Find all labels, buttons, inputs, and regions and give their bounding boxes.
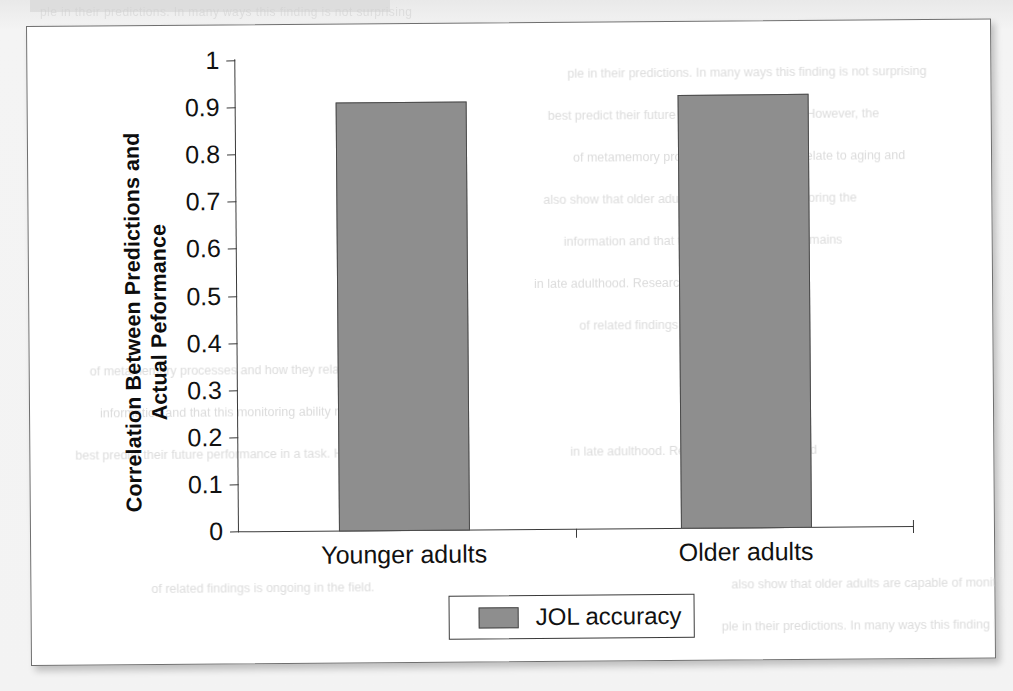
y-tick-label-0.7: 0.7 (150, 189, 220, 215)
y-tick-1 (226, 60, 235, 61)
y-tick-label-0.8: 0.8 (150, 142, 220, 168)
y-tick-label-0.1: 0.1 (153, 472, 223, 498)
x-axis-label-younger-adults: Younger adults (314, 539, 494, 569)
bar-younger-adults[interactable] (336, 102, 470, 532)
y-tick-0.7 (227, 201, 236, 202)
y-tick-label-0.2: 0.2 (152, 425, 222, 451)
y-tick-label-0: 0 (153, 519, 223, 545)
y-tick-0.1 (230, 484, 239, 485)
plot-area: Correlation Between Predictions and Actu… (27, 19, 995, 665)
page-root: ple in their predictions. In many ways t… (0, 0, 1013, 691)
chart-card: ple in their predictions. In many ways t… (26, 18, 996, 666)
y-tick-0.4 (228, 343, 237, 344)
x-axis-label-older-adults: Older adults (666, 537, 826, 567)
y-tick-0.8 (227, 154, 236, 155)
y-tick-0.5 (228, 296, 237, 297)
y-tick-label-1: 1 (149, 48, 219, 74)
y-tick-0.3 (229, 390, 238, 391)
legend-swatch-jol-accuracy (479, 607, 519, 628)
y-tick-0.9 (227, 107, 236, 108)
y-tick-label-0.6: 0.6 (151, 236, 221, 262)
x-axis-middle-tick (576, 529, 577, 538)
y-tick-label-0.5: 0.5 (151, 284, 221, 310)
bar-older-adults[interactable] (678, 94, 812, 529)
bleed-text-outer: ple in their predictions. In many ways t… (40, 5, 412, 19)
y-tick-0 (230, 531, 239, 532)
chart-card-inner: ple in their predictions. In many ways t… (27, 19, 995, 665)
x-axis-end-tick (913, 520, 914, 533)
y-tick-label-0.4: 0.4 (151, 331, 221, 357)
y-tick-0.2 (229, 437, 238, 438)
legend-label-jol-accuracy: JOL accuracy (536, 602, 682, 631)
y-tick-label-0.3: 0.3 (152, 378, 222, 404)
y-tick-0.6 (228, 248, 237, 249)
legend[interactable]: JOL accuracy (448, 594, 694, 640)
y-tick-label-0.9: 0.9 (150, 95, 220, 121)
